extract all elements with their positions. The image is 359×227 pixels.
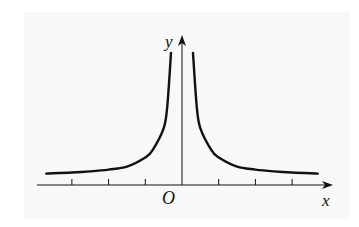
y-axis-label: y xyxy=(163,32,173,51)
curve-right-branch xyxy=(193,53,318,174)
x-axis-label: x xyxy=(321,191,330,210)
function-graph: y x O xyxy=(0,0,359,227)
origin-label: O xyxy=(162,188,175,208)
curve-left-branch xyxy=(46,53,171,174)
